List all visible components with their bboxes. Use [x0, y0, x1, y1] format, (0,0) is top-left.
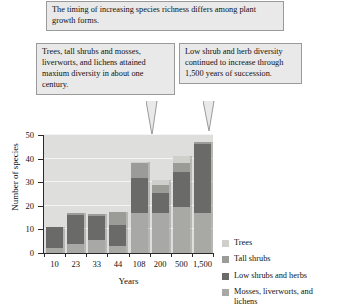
x-tick: [192, 253, 193, 257]
bar-segment: [67, 215, 84, 243]
bar-segment: [152, 193, 169, 213]
legend-label: Trees: [234, 238, 252, 248]
y-tick-label-10: 10: [0, 224, 34, 234]
callout-box-trees-maximum-diversity: Trees, tall shrubs and mosses, liverwort…: [36, 43, 175, 95]
bar-segment: [131, 178, 148, 213]
bar-segment: [173, 207, 190, 253]
bar-segment: [194, 213, 211, 253]
bar-segment: [152, 213, 169, 253]
x-tick: [86, 253, 87, 257]
bar-segment: [173, 172, 190, 207]
callout-box-timing: The timing of increasing species richnes…: [46, 1, 284, 31]
bar-segment: [88, 240, 105, 253]
legend-label: Tall shrubs: [234, 254, 271, 264]
legend-item: Trees: [222, 238, 334, 248]
bar-23: [67, 213, 84, 253]
y-tick-label-0: 0: [0, 248, 34, 258]
legend-swatch-icon: [222, 240, 229, 247]
bar-108: [131, 162, 148, 253]
bar-segment: [194, 144, 211, 212]
legend-item: Tall shrubs: [222, 254, 334, 264]
y-axis-title: Number of species: [10, 131, 20, 223]
legend-label: Low shrubs and herbs: [234, 271, 307, 281]
bar-44: [109, 212, 126, 253]
x-tick: [171, 253, 172, 257]
legend-swatch-icon: [222, 273, 229, 280]
bar-segment: [46, 227, 63, 248]
bar-segment: [109, 212, 126, 225]
bar-segment: [88, 216, 105, 240]
x-tick: [150, 253, 151, 257]
bar-1500: [194, 142, 211, 253]
x-tick: [107, 253, 108, 257]
bar-chart: 01020304050 Number of species 1023334410…: [0, 110, 337, 300]
bar-segment: [173, 163, 190, 171]
x-tick: [129, 253, 130, 257]
bar-segment: [131, 163, 148, 177]
bar-33: [88, 214, 105, 253]
bar-segment: [46, 248, 63, 253]
chart-legend: TreesTall shrubsLow shrubs and herbsMoss…: [222, 238, 334, 308]
legend-item: Mosses, liverworts, and lichens: [222, 287, 334, 308]
bar-10: [46, 227, 63, 253]
bar-200: [152, 180, 169, 253]
bar-500: [173, 156, 190, 253]
legend-label: Mosses, liverworts, and lichens: [234, 287, 334, 308]
bar-segment: [131, 213, 148, 253]
x-tick: [213, 253, 214, 257]
x-tick: [44, 253, 45, 257]
legend-swatch-icon: [222, 256, 229, 263]
x-tick-label-1500: 1,500: [187, 259, 217, 269]
bar-segment: [152, 185, 169, 193]
legend-item: Low shrubs and herbs: [222, 271, 334, 281]
bar-series-container: [44, 135, 213, 253]
x-tick: [65, 253, 66, 257]
bar-segment: [109, 246, 126, 253]
legend-swatch-icon: [222, 289, 229, 296]
bar-segment: [173, 156, 190, 163]
bar-segment: [67, 244, 84, 253]
x-axis-title: Years: [44, 276, 213, 286]
callout-box-low-shrub-herb-diversity: Low shrub and herb diversity continued t…: [179, 43, 302, 84]
bar-segment: [109, 225, 126, 246]
